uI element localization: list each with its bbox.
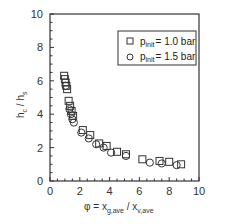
y-tick-label: 0: [37, 175, 43, 187]
circle-marker: [173, 162, 180, 169]
y-tick-label: 6: [37, 75, 43, 87]
scatter-chart: 02468100246810 pinit= 1.0 bar pinit= 1.5…: [0, 0, 225, 224]
data-points: [61, 72, 185, 168]
y-tick-label: 2: [37, 142, 43, 154]
y-tick-label: 8: [37, 41, 43, 53]
square-marker: [139, 156, 146, 163]
circle-marker: [100, 144, 107, 151]
x-axis-label: φ = xg,ave / xv,ave: [84, 201, 154, 215]
x-tick-label: 4: [107, 185, 113, 197]
circle-marker: [122, 152, 129, 159]
y-tick-label: 4: [37, 108, 43, 120]
x-tick-label: 8: [166, 185, 172, 197]
x-tick-label: 10: [193, 185, 205, 197]
x-tick-label: 0: [47, 185, 53, 197]
y-axis-label: hc / hs: [15, 91, 28, 118]
x-tick-label: 6: [136, 185, 142, 197]
legend: pinit= 1.0 bar pinit= 1.5 bar: [118, 31, 196, 65]
circle-marker: [78, 129, 85, 136]
square-marker: [166, 158, 173, 165]
circle-marker: [158, 160, 165, 167]
x-tick-label: 2: [77, 185, 83, 197]
y-tick-label: 10: [31, 8, 43, 20]
circle-marker: [146, 159, 153, 166]
square-marker: [122, 151, 129, 158]
